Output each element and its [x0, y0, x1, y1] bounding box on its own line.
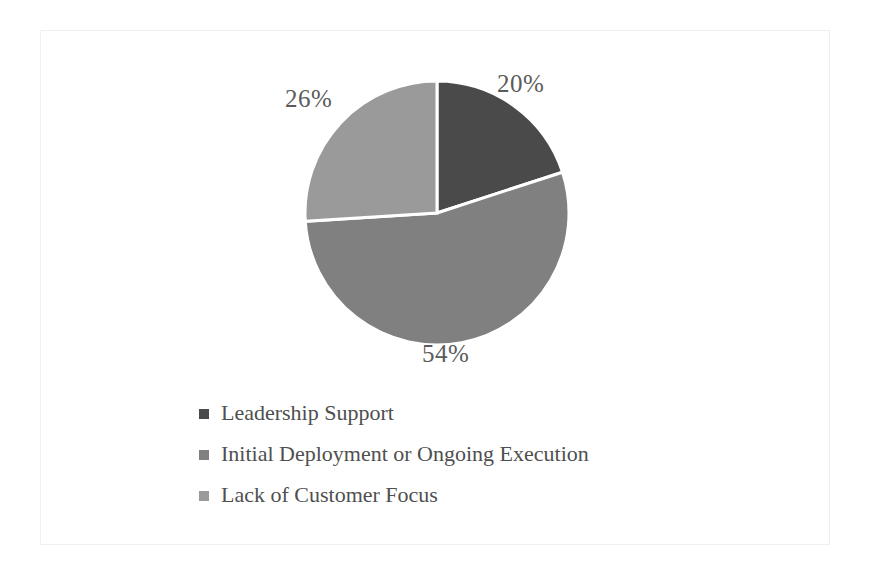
- chart-legend: Leadership Support Initial Deployment or…: [199, 392, 719, 515]
- legend-item-label: Initial Deployment or Ongoing Execution: [221, 443, 589, 465]
- pie-data-label-initial-deployment: 54%: [422, 340, 469, 368]
- pie-chart-graphic: [303, 79, 571, 347]
- legend-color-swatch-icon: [199, 491, 209, 501]
- legend-item-label: Lack of Customer Focus: [221, 484, 438, 506]
- legend-item-lack-of-customer-focus[interactable]: Lack of Customer Focus: [199, 474, 719, 515]
- legend-color-swatch-icon: [199, 450, 209, 460]
- legend-color-swatch-icon: [199, 409, 209, 419]
- pie-slice-group: [305, 81, 569, 345]
- legend-item-leadership-support[interactable]: Leadership Support: [199, 392, 719, 433]
- pie-data-label-leadership-support: 20%: [497, 70, 544, 98]
- legend-item-label: Leadership Support: [221, 402, 394, 424]
- pie-chart-figure: 20% 54% 26% Leadership Support Initial D…: [0, 0, 870, 580]
- legend-item-initial-deployment-or-ongoing-execution[interactable]: Initial Deployment or Ongoing Execution: [199, 433, 719, 474]
- pie-data-label-lack-of-customer-focus: 26%: [285, 85, 332, 113]
